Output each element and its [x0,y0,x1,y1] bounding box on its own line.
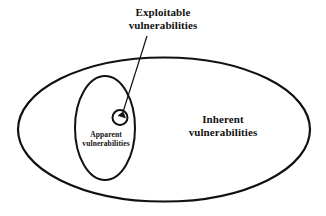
callout-arrowhead-icon [118,112,125,118]
label-inherent-vulnerabilities: Inherent vulnerabilities [176,113,270,138]
label-exploitable-line2: vulnerabilities [96,19,230,32]
venn-diagram: Exploitable vulnerabilities Inherent vul… [0,0,326,216]
label-apparent-line1: Apparent [68,130,144,139]
callout-leader-line [123,36,147,112]
label-apparent-line2: vulnerabilities [68,139,144,148]
label-apparent-vulnerabilities: Apparent vulnerabilities [68,130,144,148]
label-inherent-line2: vulnerabilities [176,126,270,139]
inner-ellipse-apparent [75,76,135,180]
label-exploitable-line1: Exploitable [96,6,230,19]
diagram-canvas [0,0,326,216]
label-exploitable-vulnerabilities: Exploitable vulnerabilities [96,6,230,31]
label-inherent-line1: Inherent [176,113,270,126]
